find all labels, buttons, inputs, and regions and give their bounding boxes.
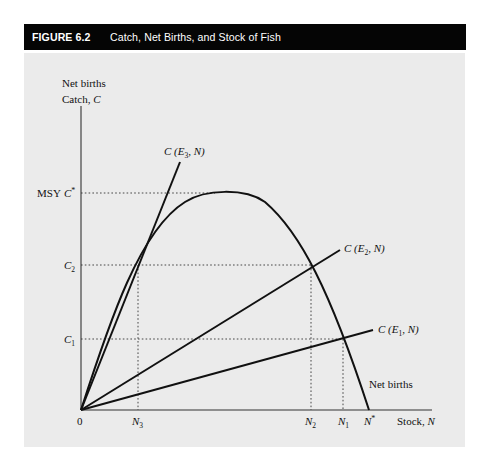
chart-plot: Net births Catch, C MSY C* C2 C1 0 N3 N2… xyxy=(0,0,488,472)
n3-label: N3 xyxy=(131,415,143,430)
catch-line-e2-label: C (E2, N) xyxy=(344,242,385,257)
net-births-curve-label: Net births xyxy=(369,378,413,390)
c-star-label: C* xyxy=(64,186,75,199)
catch-line-e2 xyxy=(81,250,340,410)
n1-label: N1 xyxy=(337,415,349,430)
n-star-label: N* xyxy=(363,414,375,427)
y-axis-label-catch: Catch, C xyxy=(62,93,101,105)
y-axis-label-net-births: Net births xyxy=(62,77,106,89)
n2-label: N2 xyxy=(304,415,316,430)
catch-line-e3 xyxy=(81,162,180,410)
reference-lines xyxy=(81,193,343,410)
msy-label: MSY xyxy=(37,187,61,199)
c1-label: C1 xyxy=(64,333,75,348)
origin-label: 0 xyxy=(77,415,83,427)
c2-label: C2 xyxy=(64,259,75,274)
catch-line-e3-label: C (E3, N) xyxy=(164,145,205,160)
catch-line-e1 xyxy=(81,330,373,410)
x-axis-label: Stock, N xyxy=(397,415,436,427)
catch-line-e1-label: C (E1, N) xyxy=(378,323,419,338)
axes xyxy=(81,106,432,410)
